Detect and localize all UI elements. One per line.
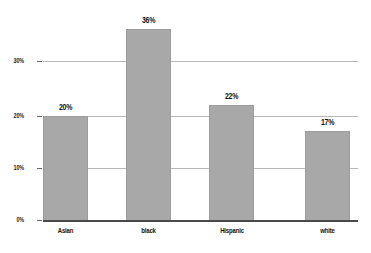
x-axis-label-asian: Asian bbox=[46, 227, 85, 234]
y-axis-tick-10: 10% bbox=[2, 164, 24, 171]
bar-black[interactable] bbox=[126, 29, 171, 220]
x-axis-label-hispanic: Hispanic bbox=[210, 227, 255, 234]
bar-value-black: 36% bbox=[130, 15, 167, 25]
x-axis-label-black: black bbox=[129, 227, 168, 234]
y-tick-dash-30 bbox=[37, 61, 42, 62]
axis-baseline bbox=[43, 220, 358, 222]
y-tick-dash-10 bbox=[37, 168, 42, 169]
bar-value-asian: 20% bbox=[47, 102, 84, 112]
bar-value-hispanic: 22% bbox=[213, 91, 250, 101]
y-tick-dash-20 bbox=[37, 116, 42, 117]
x-axis-labels: Asian black Hispanic white bbox=[43, 227, 358, 241]
bar-asian[interactable] bbox=[43, 116, 88, 220]
bar-chart: 30% 20% 10% 0% 20% 36% 22% 17% Asian bla… bbox=[0, 0, 371, 253]
x-axis-label-white: white bbox=[308, 227, 347, 234]
plot-area: 30% 20% 10% 0% 20% 36% 22% 17% bbox=[43, 20, 358, 220]
bar-value-white: 17% bbox=[309, 117, 346, 127]
bar-layer: 20% 36% 22% 17% bbox=[43, 20, 358, 220]
bar-white[interactable] bbox=[305, 131, 350, 220]
bar-hispanic[interactable] bbox=[209, 105, 254, 220]
y-tick-dash-0 bbox=[37, 220, 42, 221]
y-axis-tick-30: 30% bbox=[2, 57, 24, 64]
y-axis-tick-20: 20% bbox=[2, 112, 24, 119]
y-axis-tick-0: 0% bbox=[2, 216, 24, 223]
